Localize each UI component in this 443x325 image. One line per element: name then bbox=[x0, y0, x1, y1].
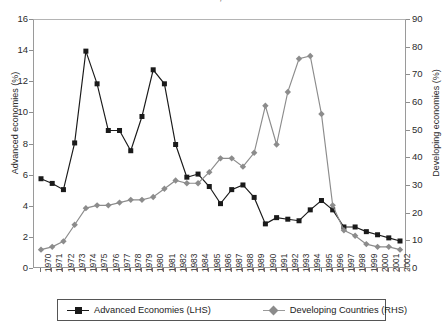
data-point-marker bbox=[307, 53, 313, 59]
data-point-marker bbox=[196, 172, 201, 177]
y-axis-tick-mark bbox=[406, 240, 410, 241]
y-axis-tick-mark bbox=[406, 268, 410, 269]
y-axis-right-tick-label: 80 bbox=[412, 42, 438, 52]
data-point-marker bbox=[128, 148, 133, 153]
x-axis-tick-mark bbox=[96, 268, 97, 272]
data-point-marker bbox=[39, 176, 44, 181]
chart-legend: Advanced Economies (LHS) Developing Coun… bbox=[57, 299, 386, 321]
y-axis-tick-mark bbox=[406, 213, 410, 214]
y-axis-right-tick-label: 90 bbox=[412, 14, 438, 24]
x-axis-tick-mark bbox=[399, 268, 400, 272]
x-axis-tick-mark bbox=[141, 268, 142, 272]
y-axis-tick-mark bbox=[29, 175, 33, 176]
x-axis-tick-mark bbox=[220, 268, 221, 272]
x-axis-tick-mark bbox=[365, 268, 366, 272]
chart-title: Economies, 1970-2002 bbox=[0, 0, 443, 2]
data-point-marker bbox=[229, 187, 234, 192]
data-point-marker bbox=[38, 246, 44, 252]
y-axis-right-tick-label: 30 bbox=[412, 180, 438, 190]
y-axis-tick-mark bbox=[29, 268, 33, 269]
y-axis-right-tick-label: 0 bbox=[412, 263, 438, 273]
y-axis-tick-mark bbox=[406, 185, 410, 186]
x-axis-tick-mark bbox=[264, 268, 265, 272]
data-point-marker bbox=[263, 221, 268, 226]
legend-marker-diamond-icon bbox=[263, 306, 285, 315]
y-axis-tick-mark bbox=[406, 102, 410, 103]
data-point-marker bbox=[374, 244, 380, 250]
y-axis-tick-mark bbox=[29, 81, 33, 82]
x-axis-tick-mark bbox=[388, 268, 389, 272]
x-axis-tick-mark bbox=[186, 268, 187, 272]
data-point-marker bbox=[61, 187, 66, 192]
data-point-marker bbox=[285, 217, 290, 222]
x-axis-tick-mark bbox=[74, 268, 75, 272]
y-axis-left-tick-label: 16 bbox=[4, 14, 28, 24]
y-axis-left-tick-label: 12 bbox=[4, 76, 28, 86]
data-point-marker bbox=[116, 199, 122, 205]
data-point-marker bbox=[353, 224, 358, 229]
x-axis-tick-mark bbox=[309, 268, 310, 272]
data-point-marker bbox=[106, 128, 111, 133]
data-point-marker bbox=[95, 81, 100, 86]
y-axis-tick-mark bbox=[406, 47, 410, 48]
data-point-marker bbox=[252, 195, 257, 200]
y-axis-right-tick-label: 60 bbox=[412, 97, 438, 107]
legend-label-advanced-economies: Advanced Economies (LHS) bbox=[94, 305, 211, 315]
x-axis-tick-label: 2002 bbox=[402, 254, 412, 272]
x-axis-tick-mark bbox=[62, 268, 63, 272]
data-point-marker bbox=[308, 207, 313, 212]
y-axis-tick-mark bbox=[29, 237, 33, 238]
data-point-marker bbox=[50, 181, 55, 186]
x-axis-tick-mark bbox=[197, 268, 198, 272]
series-canvas bbox=[34, 20, 407, 269]
data-point-marker bbox=[386, 244, 392, 250]
data-point-marker bbox=[273, 141, 279, 147]
y-axis-left-tick-label: 10 bbox=[4, 107, 28, 117]
y-axis-right-tick-label: 40 bbox=[412, 152, 438, 162]
x-axis-tick-mark bbox=[343, 268, 344, 272]
y-axis-right-tick-label: 70 bbox=[412, 69, 438, 79]
y-axis-tick-mark bbox=[29, 50, 33, 51]
data-point-marker bbox=[49, 244, 55, 250]
y-axis-tick-mark bbox=[29, 19, 33, 20]
legend-marker-square-icon bbox=[67, 306, 89, 315]
data-point-marker bbox=[83, 49, 88, 54]
x-axis-tick-mark bbox=[175, 268, 176, 272]
x-axis-tick-mark bbox=[298, 268, 299, 272]
data-point-marker bbox=[151, 67, 156, 72]
data-point-marker bbox=[319, 198, 324, 203]
data-point-marker bbox=[296, 56, 302, 62]
x-axis-tick-mark bbox=[321, 268, 322, 272]
data-point-marker bbox=[173, 142, 178, 147]
data-point-marker bbox=[318, 111, 324, 117]
x-axis-tick-mark bbox=[242, 268, 243, 272]
x-axis-tick-mark bbox=[152, 268, 153, 272]
x-axis-tick-mark bbox=[253, 268, 254, 272]
data-point-marker bbox=[285, 89, 291, 95]
data-point-marker bbox=[184, 175, 189, 180]
data-point-marker bbox=[117, 128, 122, 133]
y-axis-tick-mark bbox=[406, 157, 410, 158]
y-axis-left-tick-label: 2 bbox=[4, 232, 28, 242]
data-point-marker bbox=[240, 182, 245, 187]
x-axis-tick-mark bbox=[287, 268, 288, 272]
x-axis-tick-mark bbox=[163, 268, 164, 272]
x-axis-tick-mark bbox=[130, 268, 131, 272]
y-axis-left-tick-label: 8 bbox=[4, 139, 28, 149]
y-axis-right-tick-label: 20 bbox=[412, 208, 438, 218]
x-axis-tick-mark bbox=[119, 268, 120, 272]
data-point-marker bbox=[398, 238, 403, 243]
data-point-marker bbox=[162, 81, 167, 86]
x-axis-tick-mark bbox=[40, 268, 41, 272]
data-point-marker bbox=[397, 246, 403, 252]
y-axis-tick-mark bbox=[29, 206, 33, 207]
y-axis-tick-mark bbox=[406, 130, 410, 131]
y-axis-tick-mark bbox=[29, 112, 33, 113]
x-axis-tick-mark bbox=[231, 268, 232, 272]
data-point-marker bbox=[83, 205, 89, 211]
y-axis-left-tick-label: 0 bbox=[4, 263, 28, 273]
data-point-marker bbox=[128, 197, 134, 203]
data-point-marker bbox=[139, 114, 144, 119]
data-point-marker bbox=[71, 222, 77, 228]
legend-label-developing-countries: Developing Countries (RHS) bbox=[290, 305, 407, 315]
